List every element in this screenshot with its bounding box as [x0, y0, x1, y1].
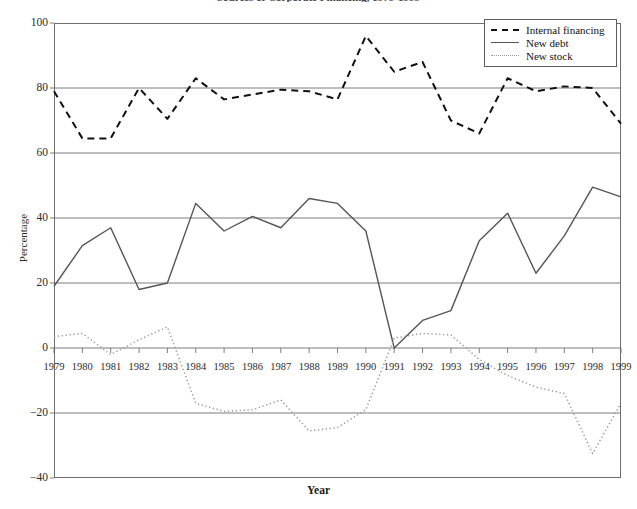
legend-label: New stock [526, 50, 573, 62]
y-tick-label: −40 [8, 472, 48, 484]
legend-item-new-debt: New debt [490, 36, 611, 49]
dashed-line-swatch-icon [490, 24, 520, 35]
y-tick-label: 80 [8, 82, 48, 94]
x-axis-label: Year [0, 484, 637, 496]
y-tick-label: −20 [8, 407, 48, 419]
y-axis-label: Percentage [17, 193, 29, 283]
chart-title: Sources of Corporate Financing, 1979-199… [0, 0, 637, 2]
y-tick-label: 60 [8, 147, 48, 159]
chart-legend: Internal financing New debt New stock [484, 19, 617, 67]
dotted-line-swatch-icon [490, 50, 520, 61]
y-tick-label: 0 [8, 342, 48, 354]
legend-label: New debt [526, 37, 568, 49]
plot-area [54, 23, 621, 478]
x-tick-label: 1999 [604, 361, 637, 373]
legend-item-new-stock: New stock [490, 49, 611, 62]
y-tick-label: 100 [8, 17, 48, 29]
solid-line-swatch-icon [490, 37, 520, 48]
legend-item-internal-financing: Internal financing [490, 23, 611, 36]
chart-figure: Sources of Corporate Financing, 1979-199… [0, 0, 637, 509]
legend-label: Internal financing [526, 24, 605, 36]
